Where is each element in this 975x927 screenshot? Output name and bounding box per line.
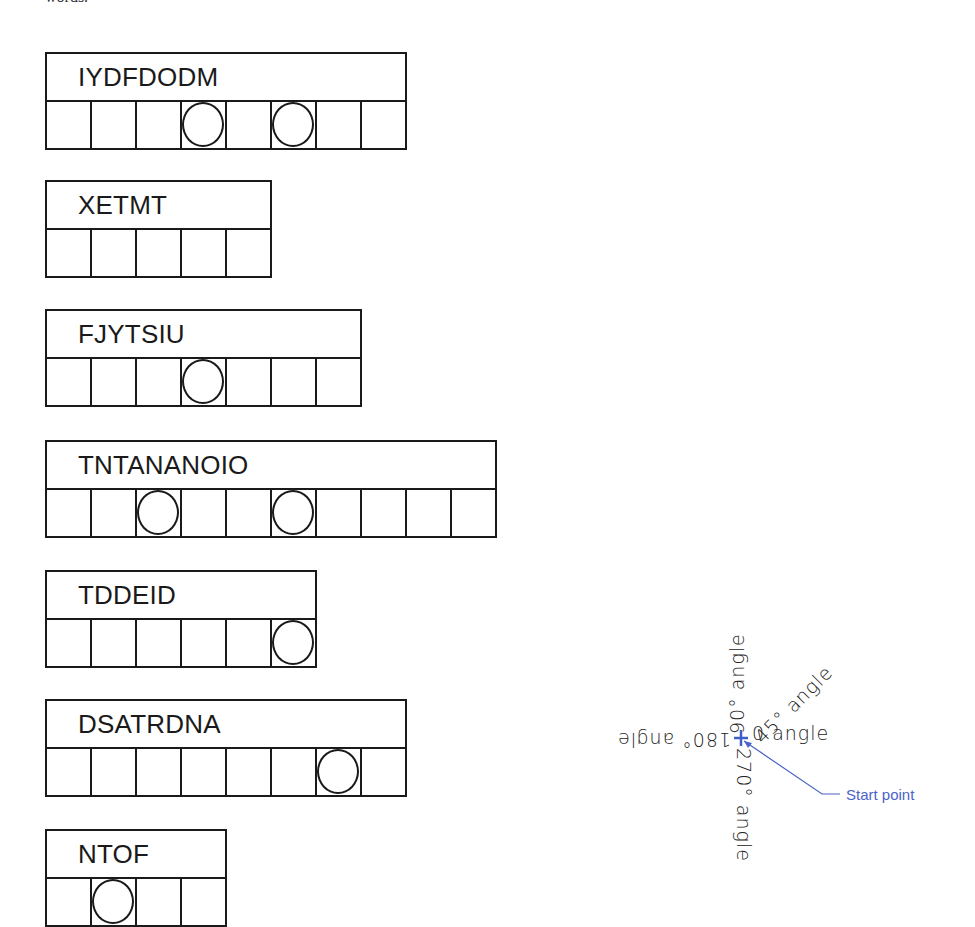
leader-line	[744, 741, 840, 794]
angle-label-270: 270° angle	[733, 748, 755, 862]
angle-label-90: 90° angle	[726, 633, 748, 734]
start-point-label: Start point	[846, 786, 914, 803]
angle-label-180: 180° angle	[617, 729, 731, 751]
